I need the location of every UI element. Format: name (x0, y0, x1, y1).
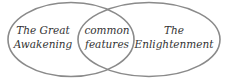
right-set-label-line2: Enlightenment (134, 38, 215, 50)
right-set-label-line1: The (164, 24, 184, 36)
left-set-label-line1: The Great (16, 24, 70, 36)
venn-diagram: The Great Awakening common features The … (0, 0, 228, 79)
intersection-label-line2: features (84, 38, 130, 50)
left-set-label-line2: Awakening (13, 38, 73, 50)
intersection-label-line1: common (84, 24, 129, 36)
